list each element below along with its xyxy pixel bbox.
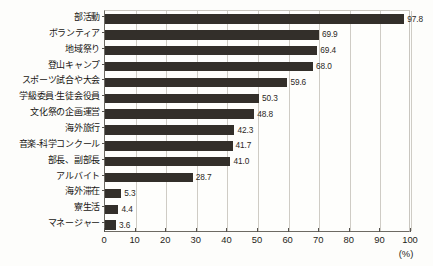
bar — [105, 220, 116, 229]
x-axis-tick — [226, 228, 227, 232]
bar-value-label: 3.6 — [119, 219, 130, 231]
x-axis-tick — [379, 228, 380, 232]
category-label: マネージャー — [48, 216, 100, 232]
bar-value-label: 50.3 — [262, 92, 278, 104]
bar — [105, 173, 193, 182]
bar-row: 41.7 — [105, 138, 409, 154]
x-axis-tick-label: 40 — [221, 234, 231, 245]
x-axis-tick — [318, 228, 319, 232]
bar-value-label: 97.8 — [407, 13, 423, 25]
category-label: 学級委員·生徒会役員 — [19, 89, 100, 105]
category-label: アルバイト — [56, 169, 100, 185]
category-label: 文化祭の企画運営 — [30, 105, 100, 121]
bar-row: 4.4 — [105, 201, 409, 217]
bar-row: 41.0 — [105, 154, 409, 170]
bar-row: 48.8 — [105, 106, 409, 122]
x-axis: 0102030405060708090100 — [104, 232, 410, 252]
x-axis-tick — [165, 228, 166, 232]
bar-row: 50.3 — [105, 90, 409, 106]
bar-row: 5.3 — [105, 185, 409, 201]
bar-value-label: 5.3 — [124, 187, 135, 199]
bar — [105, 125, 234, 134]
bar-row: 69.4 — [105, 43, 409, 59]
x-axis-tick-label: 60 — [282, 234, 292, 245]
bar-value-label: 41.0 — [233, 155, 249, 167]
x-axis-tick-label: 100 — [402, 234, 418, 245]
category-label: 寮生活 — [74, 200, 100, 216]
x-axis-tick — [257, 228, 258, 232]
x-axis-tick — [104, 228, 105, 232]
bar-row: 97.8 — [105, 11, 409, 27]
category-label: 海外滞在 — [65, 184, 100, 200]
category-label: スポーツ試合や大会 — [22, 73, 100, 89]
bar-value-label: 42.3 — [237, 124, 253, 136]
plot-area: 97.869.969.468.059.650.348.842.341.741.0… — [104, 10, 410, 232]
category-label: 海外旅行 — [65, 121, 100, 137]
bar — [105, 30, 319, 39]
bar — [105, 46, 317, 55]
x-axis-tick-label: 20 — [160, 234, 170, 245]
x-axis-tick — [135, 228, 136, 232]
category-label: 登山キャンプ — [48, 58, 100, 74]
x-axis-tick-label: 90 — [374, 234, 384, 245]
bar-row: 69.9 — [105, 27, 409, 43]
bar-row: 68.0 — [105, 59, 409, 75]
category-label: 部長、副部長 — [48, 153, 100, 169]
x-axis-tick-label: 10 — [129, 234, 139, 245]
bar-value-label: 69.9 — [322, 28, 338, 40]
bar-value-label: 48.8 — [257, 108, 273, 120]
category-label: 部活動 — [74, 10, 100, 26]
category-axis: 部活動ボランティア地域祭り登山キャンプスポーツ試合や大会学級委員·生徒会役員文化… — [0, 10, 102, 232]
bar-chart: 部活動ボランティア地域祭り登山キャンプスポーツ試合や大会学級委員·生徒会役員文化… — [0, 0, 433, 266]
bar — [105, 14, 404, 23]
x-axis-tick — [196, 228, 197, 232]
bar-value-label: 59.6 — [290, 76, 306, 88]
gridline — [411, 11, 412, 231]
category-label: 音楽-科学コンクール — [19, 137, 100, 153]
bar-row: 42.3 — [105, 122, 409, 138]
bar — [105, 157, 230, 166]
x-axis-tick-label: 80 — [344, 234, 354, 245]
bar — [105, 109, 254, 118]
bar — [105, 205, 118, 214]
bar — [105, 189, 121, 198]
x-axis-tick-label: 0 — [101, 234, 106, 245]
bar — [105, 62, 313, 71]
bar-value-label: 68.0 — [316, 60, 332, 72]
x-axis-tick-label: 30 — [191, 234, 201, 245]
x-axis-tick-label: 50 — [252, 234, 262, 245]
bar-value-label: 41.7 — [236, 139, 252, 151]
bar-row: 59.6 — [105, 74, 409, 90]
bar-value-label: 28.7 — [196, 171, 212, 183]
bar-row: 28.7 — [105, 170, 409, 186]
category-label: 地域祭り — [65, 42, 100, 58]
x-axis-tick — [288, 228, 289, 232]
bar — [105, 94, 259, 103]
bar — [105, 141, 233, 150]
bar-value-label: 4.4 — [121, 203, 132, 215]
x-axis-tick-label: 70 — [313, 234, 323, 245]
x-axis-tick — [410, 228, 411, 232]
category-label: ボランティア — [49, 26, 100, 42]
x-axis-unit-label: (%) — [399, 248, 414, 259]
x-axis-tick — [349, 228, 350, 232]
bar-value-label: 69.4 — [320, 44, 336, 56]
bar — [105, 78, 287, 87]
